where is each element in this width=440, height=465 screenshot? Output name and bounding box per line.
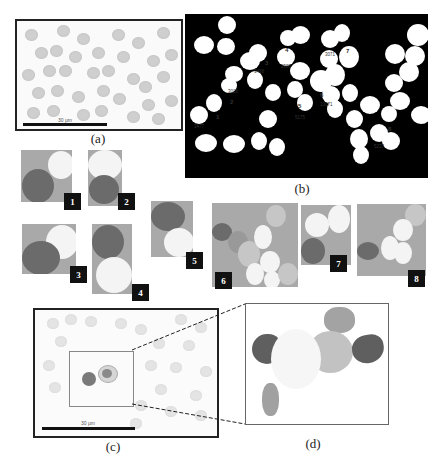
panel-d-segmented-cells xyxy=(245,303,389,425)
caption-d: (d) xyxy=(293,436,333,452)
